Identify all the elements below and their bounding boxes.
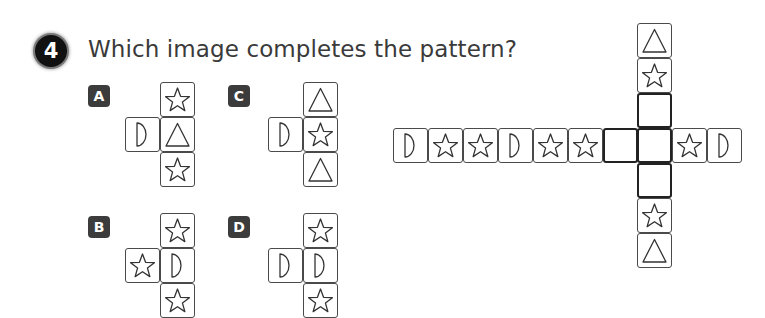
pattern-cell: [707, 128, 742, 163]
triangle-icon: [639, 235, 670, 266]
pattern-cell: [637, 23, 672, 58]
pattern-cell: [498, 128, 533, 163]
half-circle-icon: [500, 130, 531, 161]
option-label-badge[interactable]: C: [228, 85, 250, 107]
star-icon: [305, 285, 336, 316]
shape-cell: [160, 283, 195, 318]
shape-cell: [160, 152, 195, 187]
missing-cell: [637, 93, 672, 128]
shape-cell: [125, 248, 160, 283]
star-icon: [162, 154, 193, 185]
star-icon: [305, 119, 336, 150]
shape-cell: [160, 213, 195, 248]
star-icon: [305, 215, 336, 246]
star-icon: [127, 250, 158, 281]
missing-cell: [637, 163, 672, 198]
shape-cell: [160, 82, 195, 117]
shape-cell: [303, 82, 338, 117]
shape-cell: [303, 248, 338, 283]
shape-cell: [303, 283, 338, 318]
pattern-cell: [463, 128, 498, 163]
star-icon: [162, 215, 193, 246]
star-icon: [639, 60, 670, 91]
star-icon: [674, 130, 705, 161]
star-icon: [465, 130, 496, 161]
shape-cell: [268, 117, 303, 152]
triangle-icon: [305, 84, 336, 115]
missing-cell: [637, 128, 672, 163]
star-icon: [639, 200, 670, 231]
star-icon: [162, 285, 193, 316]
star-icon: [162, 84, 193, 115]
shape-cell: [160, 248, 195, 283]
question-number-badge: 4: [35, 35, 67, 67]
star-icon: [535, 130, 566, 161]
triangle-icon: [305, 154, 336, 185]
triangle-icon: [162, 119, 193, 150]
star-icon: [430, 130, 461, 161]
star-icon: [570, 130, 601, 161]
missing-cell: [603, 128, 638, 163]
half-circle-icon: [270, 119, 301, 150]
pattern-cell: [428, 128, 463, 163]
half-circle-icon: [270, 250, 301, 281]
half-circle-icon: [395, 130, 426, 161]
pattern-cell: [533, 128, 568, 163]
shape-cell: [268, 248, 303, 283]
half-circle-icon: [305, 250, 336, 281]
shape-cell: [303, 213, 338, 248]
shape-cell: [160, 117, 195, 152]
shape-cell: [125, 117, 160, 152]
option-label-badge[interactable]: D: [228, 216, 250, 238]
half-circle-icon: [709, 130, 740, 161]
pattern-cell: [393, 128, 428, 163]
option-label-badge[interactable]: A: [88, 85, 110, 107]
triangle-icon: [639, 25, 670, 56]
pattern-cell: [637, 233, 672, 268]
question-text: Which image completes the pattern?: [88, 36, 517, 62]
pattern-cell: [568, 128, 603, 163]
half-circle-icon: [162, 250, 193, 281]
option-label-badge[interactable]: B: [88, 216, 110, 238]
pattern-cell: [637, 198, 672, 233]
shape-cell: [303, 117, 338, 152]
shape-cell: [303, 152, 338, 187]
pattern-cell: [637, 58, 672, 93]
pattern-cell: [672, 128, 707, 163]
half-circle-icon: [127, 119, 158, 150]
